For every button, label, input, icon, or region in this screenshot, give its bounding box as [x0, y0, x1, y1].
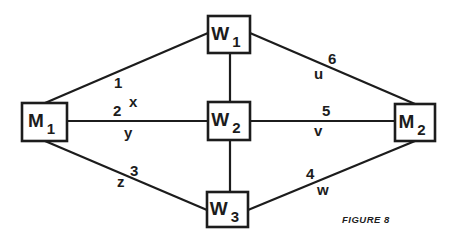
node-w2: W2: [208, 102, 250, 140]
edge-number-label: 6: [328, 50, 336, 67]
node-label-main: W: [211, 109, 229, 130]
node-label-subscript: 2: [232, 119, 240, 136]
node-label-main: M: [28, 110, 44, 131]
edge-number-label: 2: [113, 102, 121, 119]
edge-w1-m2: [250, 33, 415, 104]
node-m2: M2: [395, 104, 435, 141]
node-w3: W3: [207, 192, 248, 227]
node-label-main: W: [210, 198, 228, 219]
edge-variable-label: x: [129, 93, 138, 110]
edge-variable-label: w: [316, 181, 329, 198]
node-label-subscript: 1: [47, 120, 55, 137]
edge-m1-w3: [45, 141, 207, 210]
network-diagram: M1W1W2W3M2 1x2y3z4w5v6u FIGURE 8: [0, 0, 459, 247]
node-label-subscript: 2: [417, 121, 425, 138]
edge-number-label: 5: [322, 102, 330, 119]
node-w1: W1: [208, 16, 250, 53]
edge-variable-label: y: [124, 124, 133, 141]
node-label-main: M: [398, 111, 414, 132]
edge-variable-label: z: [117, 173, 125, 190]
node-label-subscript: 3: [231, 208, 239, 225]
node-label-subscript: 1: [232, 33, 240, 50]
node-m1: M1: [22, 103, 67, 141]
edge-w3-m2: [248, 141, 415, 210]
edge-number-label: 1: [114, 74, 122, 91]
figure-caption: FIGURE 8: [342, 214, 390, 225]
edge-variable-label: u: [314, 65, 323, 82]
edge-number-label: 3: [130, 162, 138, 179]
edge-m1-w1: [45, 33, 208, 103]
edge-variable-label: v: [314, 122, 323, 139]
edge-number-label: 4: [306, 165, 315, 182]
node-label-main: W: [211, 23, 229, 44]
